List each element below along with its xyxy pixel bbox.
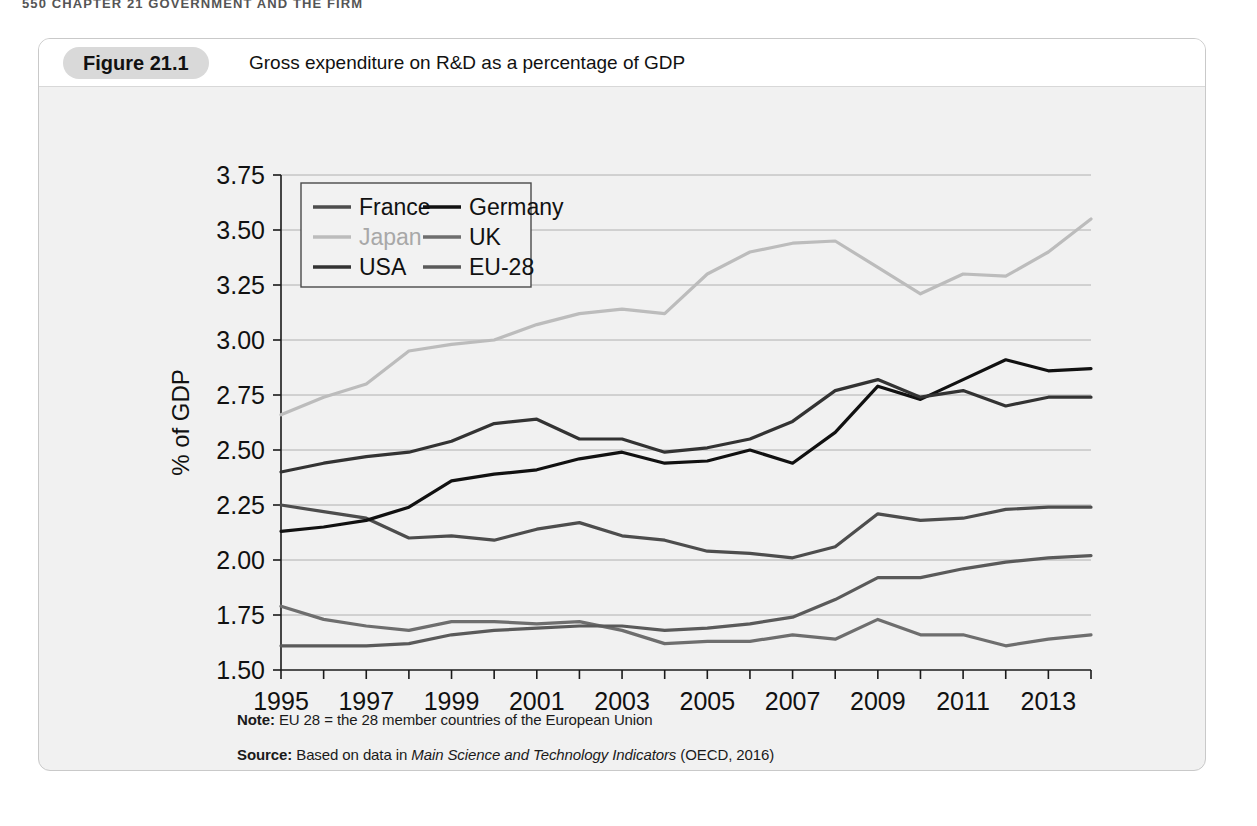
x-tick-label: 2013	[1021, 687, 1077, 715]
figure-note-body: EU 28 = the 28 member countries of the E…	[275, 711, 653, 728]
legend-label-uk[interactable]: UK	[469, 224, 502, 250]
figure-source-label: Source:	[237, 746, 292, 763]
y-tick-label: 2.75	[216, 381, 265, 409]
figure-source-body-2: (OECD, 2016)	[676, 746, 774, 763]
y-tick-label: 1.50	[216, 656, 265, 684]
y-tick-label: 2.00	[216, 546, 265, 574]
figure-note-label: Note:	[237, 711, 275, 728]
legend-label-eu-28[interactable]: EU-28	[469, 254, 534, 280]
series-line-france	[281, 505, 1091, 558]
figure-note: Note: EU 28 = the 28 member countries of…	[237, 711, 653, 728]
figure-source: Source: Based on data in Main Science an…	[237, 746, 774, 763]
figure-box: Figure 21.1 Gross expenditure on R&D as …	[38, 38, 1206, 771]
figure-header-bar: Figure 21.1 Gross expenditure on R&D as …	[39, 39, 1205, 87]
y-tick-label: 3.00	[216, 326, 265, 354]
legend-label-france[interactable]: France	[359, 194, 431, 220]
series-line-usa	[281, 380, 1091, 472]
plot-area: 1.501.752.002.252.502.753.003.253.503.75…	[39, 87, 1205, 772]
y-tick-label: 3.50	[216, 216, 265, 244]
legend-label-usa[interactable]: USA	[359, 254, 407, 280]
x-tick-label: 2005	[680, 687, 736, 715]
figure-source-title: Main Science and Technology Indicators	[411, 746, 676, 763]
y-tick-label: 2.50	[216, 436, 265, 464]
y-tick-labels: 1.501.752.002.252.502.753.003.253.503.75	[216, 161, 265, 684]
x-tick-label: 2007	[765, 687, 821, 715]
y-axis-title-text: % of GDP	[167, 369, 194, 476]
y-tick-label: 3.75	[216, 161, 265, 189]
figure-caption: Gross expenditure on R&D as a percentage…	[249, 47, 685, 79]
x-tick-label: 2009	[850, 687, 906, 715]
line-chart: 1.501.752.002.252.502.753.003.253.503.75…	[39, 87, 1207, 772]
series-line-germany	[281, 360, 1091, 532]
series-line-uk	[281, 606, 1091, 646]
figure-source-body-1: Based on data in	[292, 746, 411, 763]
legend-label-germany[interactable]: Germany	[469, 194, 564, 220]
y-tick-label: 3.25	[216, 271, 265, 299]
page-running-head: 550 CHAPTER 21 GOVERNMENT AND THE FIRM	[22, 0, 363, 8]
figure-number-badge: Figure 21.1	[63, 47, 209, 79]
y-tick-label: 1.75	[216, 601, 265, 629]
series-line-eu-28	[281, 556, 1091, 646]
y-axis-title: % of GDP	[167, 369, 194, 476]
legend-label-japan[interactable]: Japan	[359, 224, 422, 250]
chart-legend[interactable]: FranceGermanyJapanUKUSAEU-28	[301, 183, 564, 287]
y-tick-label: 2.25	[216, 491, 265, 519]
x-tick-label: 2011	[936, 687, 990, 715]
